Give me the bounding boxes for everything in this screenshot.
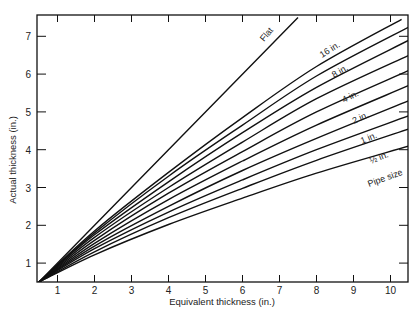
y-axis-title: Actual thickness (in.) — [7, 116, 18, 204]
curve--in — [39, 146, 409, 282]
x-tick-label: 1 — [55, 285, 61, 296]
x-tick-label: 7 — [277, 285, 283, 296]
x-axis-ticks: 12345678910 — [55, 15, 397, 296]
curves — [39, 17, 409, 282]
x-tick-label: 3 — [129, 285, 135, 296]
x-axis-title: Equivalent thickness (in.) — [169, 296, 275, 307]
chart-canvas: 12345678910 1234567 Equivalent thickness… — [0, 0, 420, 317]
x-tick-label: 5 — [203, 285, 209, 296]
y-tick-label: 5 — [25, 107, 31, 118]
y-tick-label: 6 — [25, 69, 31, 80]
x-tick-label: 10 — [385, 285, 397, 296]
label-8in: 8 in. — [330, 63, 350, 80]
x-tick-label: 8 — [314, 285, 320, 296]
label-2in: 2 in. — [351, 110, 371, 126]
curve-4-in — [39, 70, 409, 282]
x-tick-label: 2 — [92, 285, 98, 296]
y-tick-label: 4 — [25, 145, 31, 156]
y-tick-label: 3 — [25, 183, 31, 194]
x-tick-label: 6 — [240, 285, 246, 296]
label-16in: 16 in. — [318, 40, 342, 60]
label-4in: 4 in. — [340, 88, 360, 105]
y-axis-ticks: 1234567 — [25, 31, 408, 269]
curve-1-in — [39, 129, 409, 282]
curve-1-in — [39, 116, 409, 282]
x-tick-label: 9 — [351, 285, 357, 296]
curve-flat — [39, 17, 298, 282]
label-pipe-size: Pipe size — [366, 167, 404, 189]
y-tick-label: 7 — [25, 31, 31, 42]
label-flat: Flat — [258, 25, 276, 43]
label-half-in: ½ in. — [368, 149, 390, 166]
y-tick-label: 1 — [25, 258, 31, 269]
x-tick-label: 4 — [166, 285, 172, 296]
y-tick-label: 2 — [25, 220, 31, 231]
